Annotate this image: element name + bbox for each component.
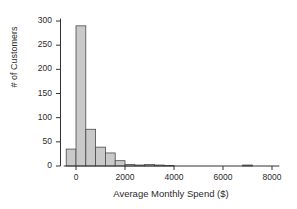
x-tick-label: 0 xyxy=(56,172,96,182)
y-tick-label: 100 xyxy=(26,112,52,122)
histogram-bar xyxy=(105,153,115,166)
x-tick-label: 2000 xyxy=(105,172,145,182)
histogram-bar xyxy=(76,26,86,166)
y-tick-label: 50 xyxy=(26,136,52,146)
y-tick-label: 300 xyxy=(26,15,52,25)
y-tick-label: 250 xyxy=(26,39,52,49)
y-axis-title: # of Customers xyxy=(9,0,19,117)
y-tick-label: 150 xyxy=(26,88,52,98)
x-axis-title: Average Monthly Spend ($) xyxy=(56,188,286,199)
y-tick-label: 200 xyxy=(26,63,52,73)
y-tick-label: 0 xyxy=(26,160,52,170)
x-tick-label: 8000 xyxy=(252,172,292,182)
histogram-bar xyxy=(115,161,125,166)
x-tick-label: 6000 xyxy=(203,172,243,182)
histogram-bar xyxy=(96,147,106,166)
x-tick-label: 4000 xyxy=(154,172,194,182)
histogram-bar xyxy=(86,129,96,166)
histogram-bar xyxy=(66,149,76,166)
histogram-figure: # of Customers Average Monthly Spend ($)… xyxy=(0,0,297,209)
